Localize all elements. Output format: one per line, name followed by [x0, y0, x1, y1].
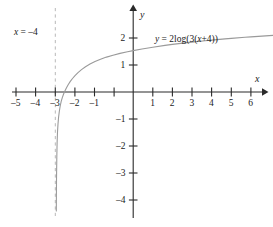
xtick-label--4: –4 [31, 99, 41, 109]
xtick-label-5: 5 [229, 99, 234, 109]
ytick-label--2: –2 [116, 142, 126, 152]
y-axis-arrowhead [129, 5, 137, 12]
ytick-label--1: –1 [116, 115, 126, 125]
equation-rhs-suffix: +4)) [202, 34, 218, 44]
xtick-label--2: –2 [70, 99, 80, 109]
x-axis-label: x [255, 74, 259, 84]
asymptote-label: x = –4 [14, 28, 38, 38]
xtick-label--1: –1 [89, 99, 99, 109]
x-axis-arrowhead [262, 88, 269, 96]
log-curve [56, 35, 273, 211]
asymptote-value: –4 [28, 27, 38, 37]
asymptote-equals: = [21, 27, 26, 37]
ytick-label--4: –4 [116, 196, 126, 206]
ytick-label--3: –3 [116, 169, 126, 179]
equation-rhs-prefix: 2log(3( [169, 34, 197, 44]
graph-figure: –5 –4 –3 –2 –1 1 2 3 4 5 6 2 1 –1 –2 –3 … [0, 0, 273, 227]
xtick-label--3: –3 [50, 99, 60, 109]
y-axis-label: y [140, 10, 144, 20]
equation-lhs: y [155, 34, 159, 44]
plot-canvas [0, 0, 273, 227]
curve-equation-label: y = 2log(3(x+4)) [155, 35, 218, 45]
asymptote-variable: x [14, 27, 18, 37]
xtick-label-1: 1 [150, 99, 155, 109]
equation-equals: = [162, 34, 167, 44]
xtick-label-3: 3 [189, 99, 194, 109]
ytick-label-1: 1 [121, 61, 126, 71]
xtick-label--5: –5 [11, 99, 21, 109]
xtick-label-6: 6 [248, 99, 253, 109]
xtick-label-2: 2 [170, 99, 175, 109]
ytick-label-2: 2 [121, 34, 126, 44]
xtick-label-4: 4 [209, 99, 214, 109]
